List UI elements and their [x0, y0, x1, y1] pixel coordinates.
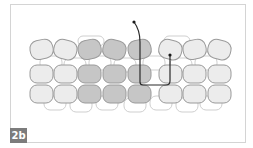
- figure-label: 2b: [10, 128, 27, 143]
- thread-start-dot: [132, 20, 135, 23]
- bead-row-2: [30, 65, 231, 83]
- bead-row-3: [30, 85, 231, 103]
- thread-end-dot: [168, 53, 171, 56]
- beadwork-diagram: [0, 0, 253, 148]
